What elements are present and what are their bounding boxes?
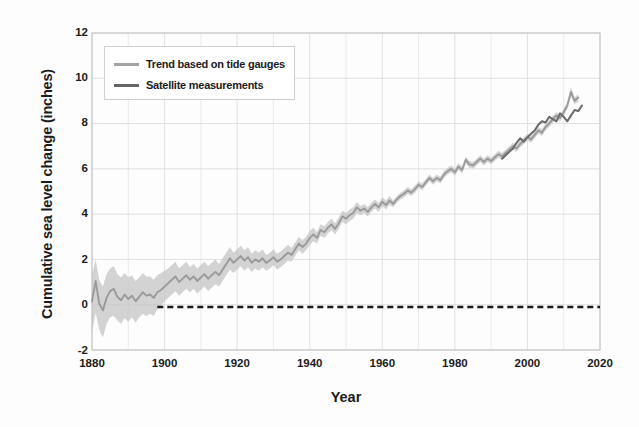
- x-tick-label: 1880: [66, 357, 118, 369]
- legend-label-trend: Trend based on tide gauges: [146, 58, 285, 70]
- x-tick-label: 1900: [139, 357, 191, 369]
- x-tick-label: 1920: [211, 357, 263, 369]
- legend-swatch-satellite: [114, 84, 139, 87]
- x-tick-label: 2020: [574, 357, 626, 369]
- legend-item-trend: Trend based on tide gauges: [114, 55, 285, 73]
- legend-swatch-trend: [114, 63, 139, 66]
- legend-label-satellite: Satellite measurements: [146, 79, 263, 91]
- x-tick-label: 1940: [284, 357, 336, 369]
- legend-item-satellite: Satellite measurements: [114, 76, 263, 94]
- x-tick-label: 1960: [356, 357, 408, 369]
- x-tick-label: 2000: [501, 357, 553, 369]
- chart-legend: Trend based on tide gauges Satellite mea…: [104, 46, 295, 100]
- x-tick-label: 1980: [429, 357, 481, 369]
- x-axis-title: Year: [92, 389, 600, 405]
- sea-level-chart-figure: Cumulative sea level change (inches) 12 …: [0, 0, 639, 427]
